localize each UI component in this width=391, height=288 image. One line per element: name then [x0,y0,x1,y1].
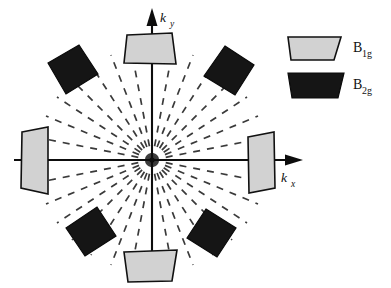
kx-axis-label: k [281,170,288,185]
axis-label-group: k y k x [160,10,296,189]
b2g-patch-upper-right [204,46,254,95]
b1g-patch-right [248,132,275,193]
symmetry-diagram: k y k x B 1g B 2g [0,0,391,288]
b2g-patch-lower-left [66,207,116,256]
radial-ray [72,80,152,160]
legend-item-b1g: B 1g [288,37,372,60]
legend: B 1g B 2g [288,37,372,98]
legend-label-b2g-subscript: 2g [362,85,372,96]
legend-swatch-b2g [288,73,344,98]
ky-axis-arrowhead [147,8,158,26]
b1g-patch-left [21,127,48,194]
kx-axis-label-subscript: x [290,179,296,189]
b1g-patch-bottom [124,250,177,282]
legend-label-b2g: B [353,77,362,92]
radial-ray [152,55,193,160]
b2g-patch-lower-right [187,209,236,257]
radial-ray [152,160,258,204]
radial-ray [152,160,193,265]
ky-axis-label-subscript: y [169,19,175,29]
b1g-patch-top [124,33,176,64]
radial-ray [46,116,152,160]
kx-axis-arrowhead [285,155,303,166]
figure-root: k y k x B 1g B 2g [0,0,391,288]
b2g-patch-upper-left [48,45,98,94]
legend-label-b1g: B [353,40,362,55]
radial-ray [152,80,232,160]
legend-swatch-b1g [288,37,341,60]
radial-ray [111,160,152,265]
origin-marker [149,157,154,162]
radial-ray [111,55,152,160]
ky-axis-label: k [160,10,167,25]
legend-label-b1g-subscript: 1g [362,48,372,59]
legend-item-b2g: B 2g [288,73,372,98]
radial-ray [46,160,152,204]
radial-ray [152,116,258,160]
